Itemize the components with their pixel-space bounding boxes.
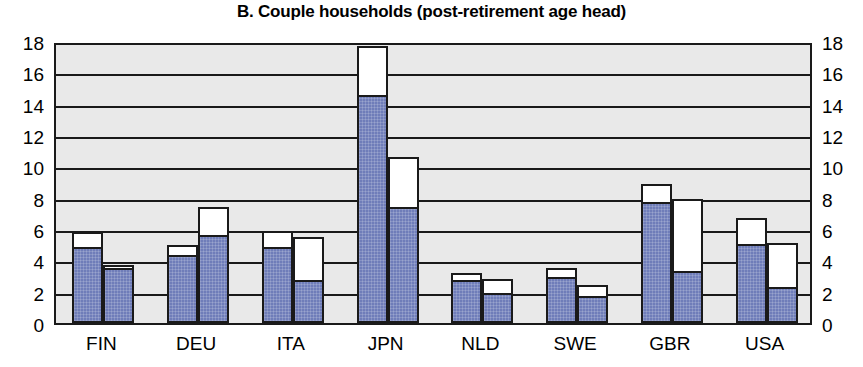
y-tick-right-14: 14 xyxy=(822,97,843,116)
bar-ita-1-blue-segment xyxy=(264,247,291,321)
y-tick-left-12: 12 xyxy=(23,128,44,147)
bar-swe-2-blue-segment xyxy=(579,296,606,321)
x-label-jpn: JPN xyxy=(368,334,404,353)
y-tick-left-16: 16 xyxy=(23,65,44,84)
bar-swe-2 xyxy=(577,285,608,323)
y-tick-left-6: 6 xyxy=(33,222,44,241)
bar-usa-2 xyxy=(767,243,798,323)
y-tick-left-18: 18 xyxy=(23,34,44,53)
bar-swe-1 xyxy=(546,268,577,323)
chart-title: B. Couple households (post-retirement ag… xyxy=(0,2,863,22)
y-tick-right-2: 2 xyxy=(822,285,833,304)
y-tick-right-16: 16 xyxy=(822,65,843,84)
y-tick-right-6: 6 xyxy=(822,222,833,241)
y-tick-left-10: 10 xyxy=(23,159,44,178)
y-tick-left-0: 0 xyxy=(33,316,44,335)
bar-nld-2 xyxy=(482,279,513,323)
y-tick-left-8: 8 xyxy=(33,191,44,210)
y-tick-right-12: 12 xyxy=(822,128,843,147)
bar-usa-1-blue-segment xyxy=(738,244,765,321)
y-tick-right-0: 0 xyxy=(822,316,833,335)
bar-usa-1 xyxy=(736,218,767,323)
bar-fin-2 xyxy=(103,265,134,323)
x-label-ita: ITA xyxy=(277,334,305,353)
bar-deu-1-blue-segment xyxy=(169,255,196,321)
bar-gbr-1-blue-segment xyxy=(643,202,670,321)
bar-swe-1-blue-segment xyxy=(548,277,575,321)
bar-jpn-1-blue-segment xyxy=(359,95,386,321)
y-tick-right-4: 4 xyxy=(822,253,833,272)
y-tick-right-10: 10 xyxy=(822,159,843,178)
y-tick-left-2: 2 xyxy=(33,285,44,304)
y-tick-right-18: 18 xyxy=(822,34,843,53)
bar-deu-2-blue-segment xyxy=(200,235,227,321)
gridline-10 xyxy=(56,168,810,170)
y-tick-right-8: 8 xyxy=(822,191,833,210)
bar-deu-1 xyxy=(167,245,198,323)
plot-area xyxy=(54,43,812,325)
bar-jpn-1 xyxy=(357,46,388,323)
y-tick-left-14: 14 xyxy=(23,97,44,116)
bar-nld-2-blue-segment xyxy=(484,293,511,321)
bar-ita-2 xyxy=(293,237,324,323)
x-label-usa: USA xyxy=(745,334,784,353)
bar-deu-2 xyxy=(198,207,229,323)
bar-gbr-1 xyxy=(641,184,672,323)
bar-fin-1-blue-segment xyxy=(74,247,101,321)
bar-gbr-2-blue-segment xyxy=(674,271,701,321)
y-tick-left-4: 4 xyxy=(33,253,44,272)
bar-nld-1 xyxy=(451,273,482,323)
x-label-swe: SWE xyxy=(553,334,596,353)
bar-nld-1-blue-segment xyxy=(453,280,480,321)
chart-figure: B. Couple households (post-retirement ag… xyxy=(0,0,863,367)
gridline-16 xyxy=(56,74,810,76)
bar-usa-2-blue-segment xyxy=(769,287,796,321)
bar-jpn-2 xyxy=(388,157,419,323)
gridline-14 xyxy=(56,106,810,108)
bar-ita-1 xyxy=(262,231,293,323)
x-label-deu: DEU xyxy=(176,334,216,353)
bar-fin-1 xyxy=(72,232,103,323)
gridline-12 xyxy=(56,137,810,139)
x-label-gbr: GBR xyxy=(649,334,690,353)
bar-jpn-2-blue-segment xyxy=(390,207,417,321)
x-label-nld: NLD xyxy=(461,334,499,353)
bar-ita-2-blue-segment xyxy=(295,280,322,321)
bar-fin-2-blue-segment xyxy=(105,268,132,321)
x-label-fin: FIN xyxy=(86,334,117,353)
bar-gbr-2 xyxy=(672,199,703,323)
